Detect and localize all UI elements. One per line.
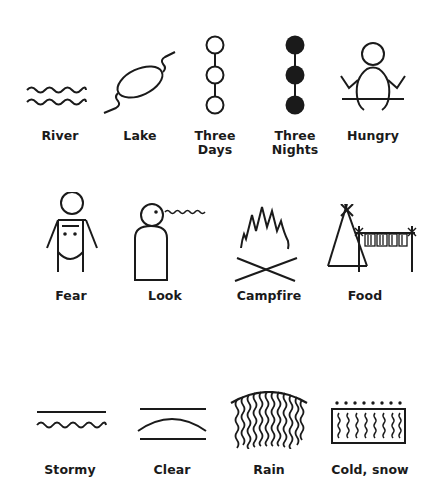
fear-icon — [42, 192, 102, 282]
symbol-fear — [42, 192, 102, 282]
label-hungry: Hungry — [343, 129, 403, 143]
clear-icon — [134, 405, 210, 445]
hungry-icon — [338, 40, 408, 112]
label-campfire: Campfire — [234, 289, 304, 303]
label-food: Food — [335, 289, 395, 303]
label-lake: Lake — [110, 129, 170, 143]
look-icon — [132, 200, 212, 282]
symbol-cold-snow — [330, 400, 410, 446]
food-icon — [325, 204, 420, 276]
three-nights-icon — [280, 34, 310, 116]
label-river: River — [30, 129, 90, 143]
label-look: Look — [135, 289, 195, 303]
symbol-look — [132, 200, 212, 282]
label-three-days: Three Days — [185, 129, 245, 157]
label-cold-snow: Cold, snow — [325, 463, 415, 477]
campfire-icon — [234, 200, 304, 282]
symbol-hungry — [338, 40, 408, 112]
lake-icon — [100, 45, 180, 115]
symbol-stormy — [34, 408, 110, 432]
label-clear: Clear — [142, 463, 202, 477]
symbol-three-nights — [280, 34, 310, 116]
symbol-food — [325, 204, 420, 276]
symbol-river — [20, 80, 100, 120]
symbol-rain — [229, 391, 309, 449]
label-stormy: Stormy — [40, 463, 100, 477]
label-three-nights: Three Nights — [265, 129, 325, 157]
rain-icon — [229, 391, 309, 449]
symbol-campfire — [234, 200, 304, 282]
cold-snow-icon — [330, 400, 410, 446]
symbol-lake — [100, 45, 180, 115]
symbol-three-days — [200, 34, 230, 116]
label-rain: Rain — [239, 463, 299, 477]
stormy-icon — [34, 408, 110, 432]
three-days-icon — [200, 34, 230, 116]
label-fear: Fear — [41, 289, 101, 303]
river-icon — [20, 80, 100, 120]
symbol-clear — [134, 405, 210, 445]
